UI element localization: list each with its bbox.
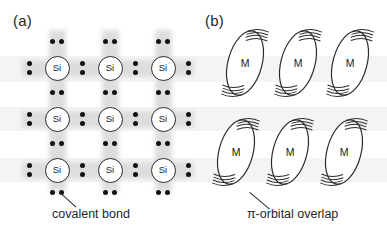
electron-dot (27, 172, 32, 177)
electron-dot (165, 141, 170, 146)
si-atom: Si (151, 158, 176, 183)
electron-dot (27, 112, 32, 117)
m-unit-label: M (241, 58, 250, 69)
m-unit-label: M (294, 58, 303, 69)
electron-dot (133, 172, 138, 177)
covalent-bond-leader-line (59, 192, 76, 208)
m-unit: M (209, 115, 263, 189)
electron-dot (165, 39, 170, 44)
electron-dot (50, 39, 55, 44)
electron-dot (59, 141, 64, 146)
electron-dot (103, 190, 108, 195)
electron-dot (133, 70, 138, 75)
electron-dot (50, 141, 55, 146)
electron-dot (27, 163, 32, 168)
electron-dot (165, 190, 170, 195)
electron-dot (80, 112, 85, 117)
m-unit-label: M (346, 58, 355, 69)
electron-dot (186, 61, 191, 66)
electron-dot (133, 163, 138, 168)
electron-dot (50, 90, 55, 95)
m-unit-label: M (232, 147, 241, 158)
m-unit-label: M (340, 147, 349, 158)
electron-dot (80, 121, 85, 126)
m-unit-label: M (286, 147, 295, 158)
electron-dot (27, 70, 32, 75)
electron-dot (112, 39, 117, 44)
pi-orbital-caption: π-orbital overlap (247, 207, 338, 221)
electron-dot (156, 39, 161, 44)
si-atom: Si (151, 107, 176, 132)
electron-dot (27, 61, 32, 66)
electron-dot (186, 121, 191, 126)
si-atom: Si (151, 56, 176, 81)
panel-a-label: (a) (13, 12, 32, 29)
m-unit: M (271, 26, 325, 100)
electron-dot (59, 90, 64, 95)
electron-dot (133, 112, 138, 117)
electron-dot (80, 70, 85, 75)
figure-canvas: (a) Si Si Si Si Si Si Si Si Si (0, 0, 387, 234)
electron-dot (50, 190, 55, 195)
m-unit: M (218, 26, 272, 100)
electron-dot (186, 172, 191, 177)
electron-dot (165, 90, 170, 95)
si-atom: Si (45, 56, 70, 81)
electron-dot (186, 70, 191, 75)
electron-dot (80, 163, 85, 168)
electron-dot (80, 172, 85, 177)
electron-dot (103, 141, 108, 146)
si-atom: Si (98, 56, 123, 81)
m-unit: M (317, 115, 371, 189)
m-unit: M (323, 26, 377, 100)
electron-dot (156, 141, 161, 146)
si-atom: Si (98, 158, 123, 183)
covalent-bond-caption: covalent bond (52, 207, 130, 221)
electron-dot (186, 163, 191, 168)
m-unit: M (263, 115, 317, 189)
electron-dot (186, 112, 191, 117)
si-atom: Si (45, 158, 70, 183)
electron-dot (156, 90, 161, 95)
electron-dot (27, 121, 32, 126)
si-atom: Si (98, 107, 123, 132)
electron-dot (133, 121, 138, 126)
electron-dot (112, 141, 117, 146)
electron-dot (133, 61, 138, 66)
electron-dot (112, 90, 117, 95)
si-atom: Si (45, 107, 70, 132)
electron-dot (103, 39, 108, 44)
electron-dot (156, 190, 161, 195)
electron-dot (80, 61, 85, 66)
electron-dot (59, 39, 64, 44)
electron-dot (112, 190, 117, 195)
electron-dot (103, 90, 108, 95)
